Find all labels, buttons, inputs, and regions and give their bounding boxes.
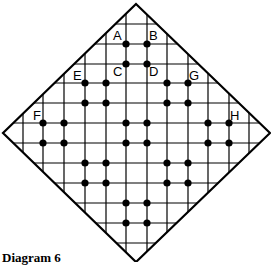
point-label-e: E: [73, 68, 82, 83]
node-dot: [39, 139, 46, 146]
node-dot: [184, 179, 191, 186]
node-dot: [122, 219, 129, 226]
node-dot: [143, 139, 150, 146]
node-dot: [81, 99, 88, 106]
point-label-g: G: [189, 68, 199, 83]
node-dot: [102, 99, 109, 106]
point-label-c: C: [113, 64, 122, 79]
node-dot: [184, 99, 191, 106]
node-dot: [184, 159, 191, 166]
node-dot: [143, 199, 150, 206]
point-label-d: D: [149, 64, 158, 79]
node-dot: [81, 79, 88, 86]
node-dot: [163, 99, 170, 106]
node-dot: [225, 139, 232, 146]
node-dot: [204, 119, 211, 126]
node-dot: [102, 79, 109, 86]
point-label-h: H: [230, 108, 239, 123]
node-dot: [143, 119, 150, 126]
point-label-f: F: [33, 108, 41, 123]
node-dot: [163, 79, 170, 86]
node-dot: [60, 139, 67, 146]
node-dot: [163, 159, 170, 166]
node-dot: [122, 40, 129, 47]
diagram-caption: Diagram 6: [2, 250, 61, 266]
node-dot: [143, 219, 150, 226]
node-dot: [204, 139, 211, 146]
point-label-a: A: [113, 28, 122, 43]
node-dot: [102, 159, 109, 166]
node-dot: [122, 60, 129, 67]
node-dot: [122, 139, 129, 146]
node-dot: [122, 119, 129, 126]
node-dot: [60, 119, 67, 126]
node-dot: [81, 179, 88, 186]
node-dot: [163, 179, 170, 186]
point-label-b: B: [149, 28, 158, 43]
node-dot: [122, 199, 129, 206]
node-dot: [81, 159, 88, 166]
node-dot: [102, 179, 109, 186]
